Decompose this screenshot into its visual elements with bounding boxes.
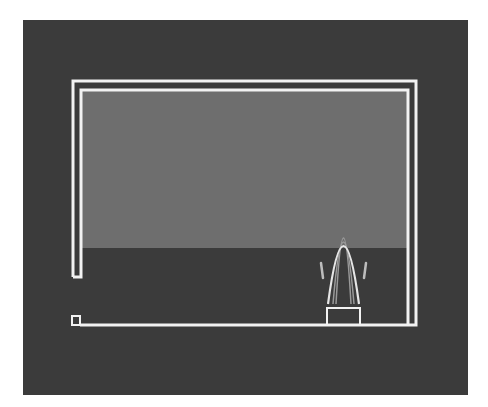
upper-light-region xyxy=(82,91,407,248)
chamber-schematic xyxy=(0,0,488,407)
diagram-stage xyxy=(0,0,488,407)
